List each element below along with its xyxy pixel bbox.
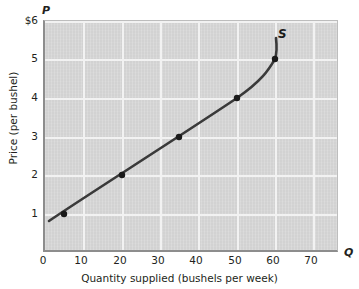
- data-point-35-3: [176, 134, 182, 140]
- plot-area: [43, 20, 338, 252]
- x-tick-70: 70: [296, 255, 326, 266]
- y-axis-symbol: P: [42, 4, 50, 17]
- y-tick-label-4: 4: [0, 92, 38, 103]
- x-axis-symbol: Q: [344, 246, 353, 259]
- y-axis-title: Price (per bushel): [7, 53, 19, 183]
- data-point-20-2: [119, 172, 125, 178]
- data-point-50-4: [234, 95, 240, 101]
- y-tick-2: 2: [0, 169, 38, 180]
- y-tick-1: 1: [0, 208, 38, 219]
- x-tick-30: 30: [143, 255, 173, 266]
- data-point-5-1: [61, 211, 67, 217]
- y-tick-label-2: 2: [0, 169, 38, 180]
- x-tick-60: 60: [258, 255, 288, 266]
- x-tick-20: 20: [105, 255, 135, 266]
- x-tick-10: 10: [66, 255, 96, 266]
- y-tick-4: 4: [0, 92, 38, 103]
- supply-curve-path: [49, 38, 277, 221]
- x-tick-50: 50: [220, 255, 250, 266]
- supply-curve-svg: [45, 21, 338, 252]
- y-tick-label-3: 3: [0, 131, 38, 142]
- y-tick-label-6: $6: [0, 15, 38, 26]
- y-tick-label-1: 1: [0, 208, 38, 219]
- x-tick-0: 0: [28, 255, 58, 266]
- series-label-s: S: [278, 27, 287, 41]
- y-tick-label-5: 5: [0, 53, 38, 64]
- y-tick-3: 3: [0, 131, 38, 142]
- x-axis-title: Quantity supplied (bushels per week): [0, 272, 359, 284]
- data-point-60-5: [272, 56, 278, 62]
- supply-curve-chart: P S $6 5 4 3 2 1 0 1: [0, 0, 359, 289]
- y-tick-5: 5: [0, 53, 38, 64]
- y-tick-6: $6: [0, 15, 38, 26]
- x-tick-40: 40: [181, 255, 211, 266]
